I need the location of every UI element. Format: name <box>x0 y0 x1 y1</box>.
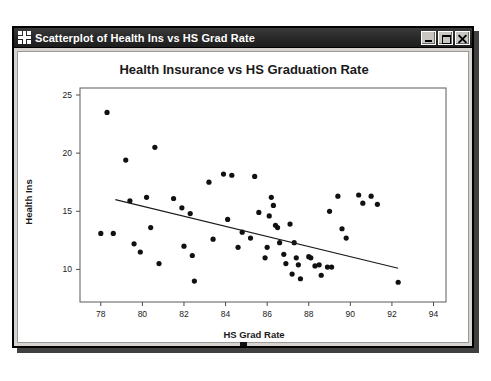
data-point <box>225 217 230 222</box>
x-tick-label: 90 <box>346 309 356 319</box>
resize-grip[interactable] <box>240 342 247 346</box>
data-point <box>356 192 361 197</box>
data-point <box>344 235 349 240</box>
x-tick-label: 86 <box>262 309 272 319</box>
minimize-button[interactable] <box>421 31 436 45</box>
y-tick-label: 15 <box>63 206 73 216</box>
y-tick-label: 10 <box>63 264 73 274</box>
data-point <box>111 231 116 236</box>
data-points <box>98 110 401 285</box>
plot-frame <box>80 88 446 302</box>
data-point <box>317 262 322 267</box>
x-axis-ticks: 788082848688909294 <box>96 302 438 319</box>
data-point <box>298 276 303 281</box>
data-point <box>148 225 153 230</box>
data-point <box>131 241 136 246</box>
data-point <box>267 213 272 218</box>
data-point <box>248 235 253 240</box>
y-tick-label: 20 <box>63 148 73 158</box>
data-point <box>269 195 274 200</box>
data-point <box>327 209 332 214</box>
data-point <box>206 180 211 185</box>
data-point <box>179 205 184 210</box>
close-icon[interactable] <box>455 31 470 45</box>
x-tick-label: 88 <box>304 309 314 319</box>
maximize-button[interactable] <box>438 31 453 45</box>
y-axis-title: Health Ins <box>23 179 34 224</box>
data-point <box>287 221 292 226</box>
data-point <box>283 261 288 266</box>
data-point <box>221 171 226 176</box>
data-point <box>156 261 161 266</box>
data-point <box>369 194 374 199</box>
x-tick-label: 84 <box>221 309 231 319</box>
x-tick-label: 82 <box>179 309 189 319</box>
data-point <box>104 110 109 115</box>
data-point <box>152 145 157 150</box>
window-title: Scatterplot of Health Ins vs HS Grad Rat… <box>35 32 421 44</box>
data-point <box>275 225 280 230</box>
x-tick-label: 94 <box>429 309 439 319</box>
data-point <box>290 271 295 276</box>
x-tick-label: 80 <box>138 309 148 319</box>
data-point <box>271 203 276 208</box>
data-point <box>210 237 215 242</box>
data-point <box>262 255 267 260</box>
data-point <box>181 244 186 249</box>
chart-client-area: Health Insurance vs HS Graduation Rate H… <box>17 51 469 343</box>
y-tick-label: 25 <box>63 90 73 100</box>
window-title-bar[interactable]: Scatterplot of Health Ins vs HS Grad Rat… <box>14 28 472 48</box>
x-axis-title: HS Grad Rate <box>223 329 284 340</box>
plot-border <box>80 88 446 302</box>
data-point <box>396 280 401 285</box>
data-point <box>256 210 261 215</box>
data-point <box>123 158 128 163</box>
data-point <box>188 211 193 216</box>
data-point <box>229 173 234 178</box>
data-point <box>329 265 334 270</box>
data-point <box>190 253 195 258</box>
x-tick-label: 78 <box>96 309 106 319</box>
data-point <box>265 245 270 250</box>
data-point <box>335 194 340 199</box>
window-controls <box>421 31 470 45</box>
data-point <box>375 202 380 207</box>
y-axis-ticks: 10152025 <box>63 90 80 274</box>
x-tick-label: 92 <box>387 309 397 319</box>
data-point <box>252 174 257 179</box>
data-point <box>277 240 282 245</box>
data-point <box>138 249 143 254</box>
regression-line-segment <box>115 200 398 269</box>
minitab-graph-icon <box>18 31 31 44</box>
data-point <box>294 255 299 260</box>
data-point <box>144 195 149 200</box>
scatter-chart: Health Insurance vs HS Graduation Rate H… <box>18 52 469 343</box>
data-point <box>296 262 301 267</box>
data-point <box>281 252 286 257</box>
data-point <box>339 226 344 231</box>
data-point <box>192 278 197 283</box>
data-point <box>308 255 313 260</box>
regression-line <box>115 200 398 269</box>
chart-title: Health Insurance vs HS Graduation Rate <box>119 62 368 77</box>
data-point <box>235 245 240 250</box>
data-point <box>319 273 324 278</box>
data-point <box>360 201 365 206</box>
scatterplot-window: Scatterplot of Health Ins vs HS Grad Rat… <box>12 26 474 348</box>
data-point <box>98 231 103 236</box>
data-point <box>171 196 176 201</box>
